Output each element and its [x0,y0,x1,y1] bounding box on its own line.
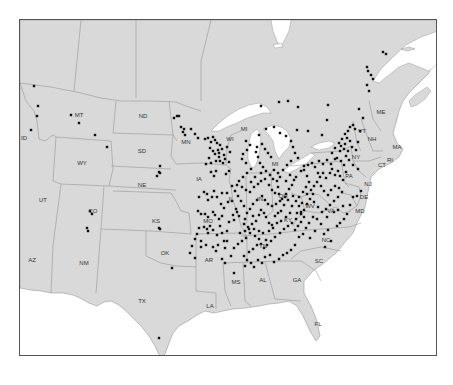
data-point [329,172,331,174]
data-point [321,134,323,136]
data-point [203,226,205,228]
data-point [270,240,272,242]
data-point [300,221,302,223]
data-point [302,191,304,193]
data-point [235,208,237,210]
data-point [309,198,311,200]
state-label-nd: ND [139,113,148,119]
data-point [279,176,281,178]
data-point [209,147,211,149]
data-point [279,232,281,234]
data-point [215,170,217,172]
data-point [242,176,244,178]
data-point [94,134,96,136]
data-point [228,221,230,223]
data-point [283,204,285,206]
data-point [298,205,300,207]
data-point [249,191,251,193]
state-label-ma: MA [393,144,402,150]
data-point [288,188,290,190]
data-point [242,153,244,155]
data-point [355,149,357,151]
data-point [307,130,309,132]
data-point [319,176,321,178]
data-point [287,225,289,227]
state-label-wy: WY [77,160,87,166]
data-point [225,173,227,175]
state-label-mn: MN [181,139,190,145]
data-point [340,160,342,162]
data-point [334,174,336,176]
data-point [257,183,259,185]
data-point [262,232,264,234]
data-point [212,150,214,152]
data-point [297,225,299,227]
state-label-ne: NE [138,182,146,188]
data-point [33,85,35,87]
data-point [258,134,260,136]
data-point [87,230,89,232]
data-point [265,170,267,172]
data-point [159,172,161,174]
data-point [351,146,353,148]
data-point [218,152,220,154]
data-point [243,205,245,207]
data-point [327,229,329,231]
data-point [218,156,220,158]
data-point [292,195,294,197]
data-point [171,267,173,269]
data-point [198,227,200,229]
data-point [290,140,292,142]
state-label-nc: NC [322,237,331,243]
data-point [194,238,196,240]
data-point [221,192,223,194]
data-point [274,215,276,217]
data-point [285,180,287,182]
data-point [205,244,207,246]
data-point [207,137,209,139]
data-point [270,156,272,158]
data-point [30,129,32,131]
data-point [294,229,296,231]
data-point [322,172,324,174]
data-point [183,128,185,130]
data-point [215,160,217,162]
state-label-ok: OK [161,250,170,256]
us-map: IDMTNDMNWYSDNEWIMIMIIAUTCOKSILINOHMOWVKY… [20,20,437,356]
state-label-ny: NY [352,154,360,160]
data-point [272,178,274,180]
data-point [212,136,214,138]
state-label-id: ID [21,135,28,141]
data-point [331,152,333,154]
data-point [310,189,312,191]
data-point [314,230,316,232]
data-point [243,255,245,257]
data-point [237,243,239,245]
data-point [273,126,275,128]
data-point [336,225,338,227]
data-point [300,170,302,172]
data-point [305,227,307,229]
data-point [233,247,235,249]
data-point [232,214,234,216]
data-point [385,53,387,55]
data-point [245,162,247,164]
data-point [265,128,267,130]
data-point [301,202,303,204]
data-point [245,237,247,239]
data-point [265,216,267,218]
data-point [214,153,216,155]
data-point [253,228,255,230]
data-point [200,246,202,248]
data-point [249,208,251,210]
data-point [370,74,372,76]
data-point [303,165,305,167]
data-point [191,245,193,247]
data-point [211,196,213,198]
data-point [253,266,255,268]
data-point [287,100,289,102]
state-label-ri: RI [387,157,393,163]
data-point [280,220,282,222]
data-point [339,175,341,177]
data-point [330,189,332,191]
